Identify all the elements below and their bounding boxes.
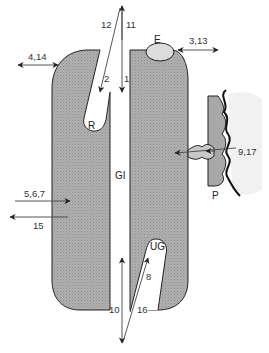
- label-4-14: 4,14: [28, 51, 47, 62]
- label-E: E: [154, 34, 161, 45]
- label-15: 15: [33, 220, 44, 231]
- label-5-6-7: 5,6,7: [24, 188, 45, 199]
- label-GI: GI: [115, 170, 126, 181]
- label-9-17: 9,17: [238, 146, 257, 157]
- label-11: 11: [126, 19, 136, 30]
- left-block: [52, 50, 110, 310]
- label-12: 12: [101, 19, 112, 30]
- label-16: 16: [137, 304, 148, 315]
- shaded-region: [228, 92, 262, 194]
- right-block: [130, 50, 188, 312]
- diagram-canvas: E R GI UG P 12 11 2 1 4,14 3,13 9,17 5,6…: [0, 0, 269, 353]
- label-P: P: [212, 190, 219, 201]
- label-3-13: 3,13: [189, 35, 208, 46]
- region-E: [146, 43, 174, 61]
- label-UG: UG: [150, 241, 165, 252]
- label-2: 2: [104, 73, 109, 84]
- label-8: 8: [146, 271, 151, 282]
- label-R: R: [88, 120, 95, 131]
- label-1: 1: [124, 73, 129, 84]
- label-10: 10: [109, 304, 120, 315]
